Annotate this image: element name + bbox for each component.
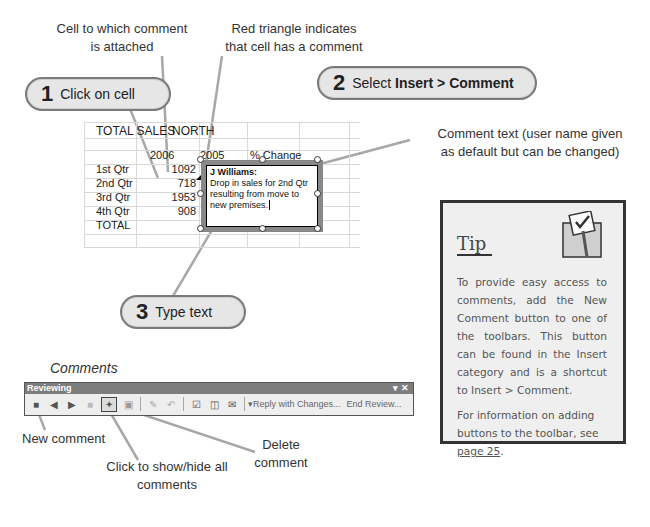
resize-handle[interactable]	[314, 190, 321, 197]
step-number: 2	[333, 70, 345, 96]
callout-line: is attached	[52, 38, 192, 56]
toolbar-separator	[244, 397, 245, 411]
new-comment-icon[interactable]: ■	[29, 398, 43, 411]
comment-author: J Williams:	[210, 167, 314, 178]
page-reference-link[interactable]: page 25	[457, 445, 500, 457]
comment-line: Drop in sales for 2nd Qtr	[210, 178, 314, 189]
reviewing-pane-icon[interactable]: ☑	[189, 398, 203, 411]
comment-box[interactable]: J Williams: Drop in sales for 2nd Qtr re…	[201, 160, 323, 232]
sheet-region-cell[interactable]: NORTH	[172, 124, 214, 138]
tip-paragraph: For information on adding buttons to the…	[457, 406, 607, 460]
callout-red-triangle: Red triangle indicates that cell has a c…	[214, 20, 374, 56]
step-label: Type text	[155, 304, 212, 320]
reply-with-changes-button[interactable]: ▾Reply with Changes...	[248, 399, 341, 409]
comment-textarea[interactable]: J Williams: Drop in sales for 2nd Qtr re…	[206, 165, 318, 227]
tip-title: Tip	[457, 233, 492, 256]
callout-line: Click to show/hide all	[92, 458, 242, 476]
callout-comment-text: Comment text (user name given as default…	[410, 125, 650, 161]
resize-handle[interactable]	[314, 225, 321, 232]
callout-show-hide: Click to show/hide all comments	[92, 458, 242, 494]
row-value-cell[interactable]: 1092	[150, 163, 196, 175]
tip-text-span: .	[500, 445, 503, 457]
callout-cell-attached: Cell to which comment is attached	[52, 20, 192, 56]
sheet-title-cell[interactable]: TOTAL SALES	[96, 124, 175, 138]
accept-change-icon[interactable]: ↶	[164, 398, 178, 411]
callout-line: Delete	[250, 436, 312, 454]
previous-comment-icon[interactable]: ◀	[47, 398, 61, 411]
tip-body: To provide easy access to comments, add …	[457, 273, 607, 467]
toolbar-separator	[183, 397, 184, 411]
row-label-cell[interactable]: 2nd Qtr	[96, 177, 133, 189]
callout-line: as default but can be changed)	[410, 143, 650, 161]
resize-handle[interactable]	[197, 190, 204, 197]
reply-label: Reply with Changes...	[253, 399, 341, 409]
reviewing-toolbar: Reviewing ▾ ✕ ■ ◀ ▶ ■ ✦ ▣ ✎ ↶ ☑ ◫ ✉ ▾Rep…	[24, 382, 414, 416]
checkmark-sign-icon	[559, 211, 609, 261]
callout-line: comment	[250, 454, 312, 472]
step-1-pill: 1 Click on cell	[25, 77, 171, 111]
tip-paragraph: To provide easy access to comments, add …	[457, 273, 607, 399]
step-number: 3	[136, 299, 148, 325]
resize-handle[interactable]	[197, 225, 204, 232]
commented-cell[interactable]: 718	[150, 177, 196, 189]
show-all-comments-icon[interactable]: ✦	[101, 397, 117, 412]
callout-line: Cell to which comment	[52, 20, 192, 38]
row-label-cell[interactable]: 4th Qtr	[96, 205, 130, 217]
step-label-prefix: Select	[352, 75, 395, 91]
row-label-cell[interactable]: 1st Qtr	[96, 163, 129, 175]
callout-delete-comment: Delete comment	[250, 436, 312, 472]
send-mail-icon[interactable]: ✉	[225, 398, 239, 411]
resize-handle[interactable]	[259, 225, 266, 232]
header-2006-cell[interactable]: 2006	[150, 149, 174, 161]
compare-icon[interactable]: ◫	[207, 398, 221, 411]
track-changes-icon[interactable]: ✎	[146, 398, 160, 411]
step-number: 1	[41, 81, 53, 107]
tip-text-span: For information on adding buttons to the…	[457, 409, 599, 439]
resize-handle[interactable]	[197, 156, 204, 163]
step-label-menu-path: Insert > Comment	[395, 75, 514, 91]
toolbar-caption: Comments	[50, 360, 118, 376]
toolbar-title: Reviewing	[27, 383, 72, 393]
row-value-cell[interactable]: 908	[150, 205, 196, 217]
toolbar-title-bar[interactable]: Reviewing ▾ ✕	[25, 383, 413, 394]
row-label-cell[interactable]: TOTAL	[96, 219, 130, 231]
callout-line: Red triangle indicates	[214, 20, 374, 38]
tip-box: Tip To provide easy access to comments, …	[440, 200, 626, 444]
next-comment-icon[interactable]: ▶	[65, 398, 79, 411]
resize-handle[interactable]	[259, 156, 266, 163]
text-cursor	[269, 200, 273, 210]
step-label: Click on cell	[60, 86, 135, 102]
end-review-button[interactable]: End Review...	[347, 399, 402, 409]
resize-handle[interactable]	[314, 156, 321, 163]
toolbar-separator	[140, 397, 141, 411]
step-3-pill: 3 Type text	[120, 295, 246, 329]
callout-line: that cell has a comment	[214, 38, 374, 56]
row-value-cell[interactable]: 1953	[150, 191, 196, 203]
comment-line: new premises.	[210, 200, 268, 210]
show-comment-icon[interactable]: ■	[83, 398, 97, 411]
callout-line: comments	[92, 476, 242, 494]
comment-line: resulting from move to	[210, 189, 314, 200]
step-2-pill: 2 Select Insert > Comment	[317, 66, 537, 100]
toolbar-window-controls[interactable]: ▾ ✕	[393, 383, 409, 394]
comment-line-last: new premises.	[210, 200, 314, 211]
callout-new-comment: New comment	[22, 430, 105, 448]
delete-comment-icon[interactable]: ▣	[121, 398, 135, 411]
callout-line: Comment text (user name given	[410, 125, 650, 143]
row-label-cell[interactable]: 3rd Qtr	[96, 191, 130, 203]
